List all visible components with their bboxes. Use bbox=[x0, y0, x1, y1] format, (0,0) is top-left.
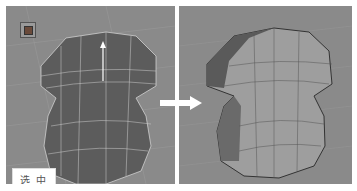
right-viewport[interactable] bbox=[179, 6, 352, 184]
selected-label: 选中 bbox=[12, 168, 56, 184]
cube-icon[interactable] bbox=[20, 22, 36, 38]
left-viewport[interactable]: 选中 bbox=[6, 6, 175, 184]
arrow-right-icon bbox=[160, 96, 204, 110]
shaded-model bbox=[179, 6, 352, 184]
